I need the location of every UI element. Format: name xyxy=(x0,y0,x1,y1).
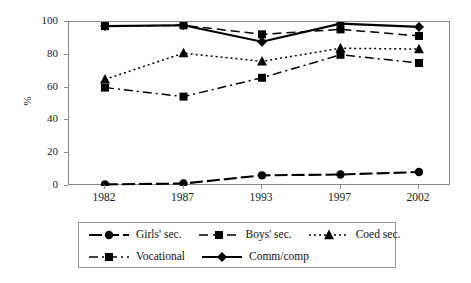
y-axis-title: % xyxy=(21,96,33,105)
y-tick-label: 20 xyxy=(32,146,58,157)
legend-key-diamond-icon xyxy=(201,250,243,264)
y-tick-mark xyxy=(64,185,68,186)
data-point-marker xyxy=(336,170,344,178)
data-point-marker xyxy=(105,230,113,238)
legend-key-square-icon xyxy=(88,250,130,264)
x-tick-mark xyxy=(418,185,419,189)
legend-key-square-icon xyxy=(198,228,240,242)
legend-entry[interactable]: Girls' sec. xyxy=(88,228,182,242)
legend-row-1: Girls' sec.Boys' sec.Coed sec. xyxy=(79,223,404,246)
legend-entry[interactable]: Vocational xyxy=(88,250,185,264)
legend-label: Comm/comp xyxy=(249,251,309,263)
data-point-marker xyxy=(105,253,113,261)
series-canvas xyxy=(69,22,451,186)
y-tick-label: 0 xyxy=(32,179,58,190)
legend-label: Girls' sec. xyxy=(136,229,182,241)
x-tick-label: 1993 xyxy=(238,192,284,204)
x-tick-mark xyxy=(261,185,262,189)
legend-entry[interactable]: Boys' sec. xyxy=(198,228,292,242)
x-tick-label: 1997 xyxy=(317,192,363,204)
data-point-marker xyxy=(258,74,266,82)
data-point-marker xyxy=(215,231,223,239)
data-point-marker xyxy=(415,59,423,67)
x-tick-label: 1987 xyxy=(160,192,206,204)
y-tick-label: 40 xyxy=(32,113,58,124)
data-point-marker xyxy=(100,74,110,84)
data-point-marker xyxy=(414,22,424,32)
data-point-marker xyxy=(101,84,109,92)
data-point-marker xyxy=(258,171,266,179)
chart-legend: Girls' sec.Boys' sec.Coed sec. Vocationa… xyxy=(78,222,396,268)
y-tick-label: 60 xyxy=(32,81,58,92)
plot-area xyxy=(68,21,450,185)
data-point-marker xyxy=(101,180,109,186)
series-girls-sec xyxy=(101,168,423,186)
data-point-marker xyxy=(415,168,423,176)
data-point-marker xyxy=(179,179,187,186)
data-point-marker xyxy=(180,93,188,101)
data-point-marker xyxy=(337,51,345,59)
legend-key-circle-icon xyxy=(88,228,130,242)
legend-label: Vocational xyxy=(136,251,185,263)
legend-label: Coed sec. xyxy=(356,229,401,241)
x-tick-label: 1982 xyxy=(81,192,127,204)
legend-entry[interactable]: Comm/comp xyxy=(201,250,309,264)
x-tick-mark xyxy=(183,185,184,189)
legend-row-2: VocationalComm/comp xyxy=(79,245,404,268)
legend-entry[interactable]: Coed sec. xyxy=(308,228,401,242)
x-tick-mark xyxy=(104,185,105,189)
data-point-marker xyxy=(217,252,227,262)
data-point-marker xyxy=(415,32,423,40)
legend-key-triangle-icon xyxy=(308,228,350,242)
x-tick-label: 2002 xyxy=(395,192,441,204)
y-tick-label: 100 xyxy=(32,15,58,26)
chart-figure: % 100806040200 19821987199319972002 Girl… xyxy=(0,0,471,283)
x-tick-mark xyxy=(340,185,341,189)
legend-label: Boys' sec. xyxy=(246,229,292,241)
data-point-marker xyxy=(179,48,189,58)
y-tick-label: 80 xyxy=(32,48,58,59)
